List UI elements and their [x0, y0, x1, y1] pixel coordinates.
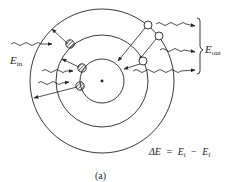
- excitation-arrow: [34, 87, 77, 98]
- excitation-arrow: [62, 59, 79, 67]
- incoming-photon: [38, 82, 69, 85]
- atom-energy-diagram: Ein Eout ΔE = Ei − Ef (a): [0, 0, 236, 182]
- e-in-label: Ein: [9, 54, 23, 68]
- emitting-electron: [139, 57, 147, 65]
- e-out-brace: [197, 18, 203, 74]
- outgoing-photon: [156, 23, 195, 27]
- nucleus: [101, 80, 104, 83]
- energy-equation: ΔE = Ei − Ef: [148, 146, 211, 159]
- relaxation-arrow: [124, 64, 140, 69]
- emitting-electron: [155, 32, 163, 40]
- absorbing-electron: [78, 64, 86, 72]
- e-out-label: Eout: [204, 43, 221, 57]
- absorbing-electron: [66, 40, 74, 48]
- absorbing-electron: [76, 82, 84, 90]
- emitting-electron: [144, 21, 152, 29]
- outgoing-photon: [160, 49, 195, 53]
- outgoing-photon: [133, 70, 195, 73]
- figure-caption: (a): [95, 170, 106, 182]
- incoming-photon: [11, 43, 52, 46]
- excitation-arrow: [52, 29, 68, 44]
